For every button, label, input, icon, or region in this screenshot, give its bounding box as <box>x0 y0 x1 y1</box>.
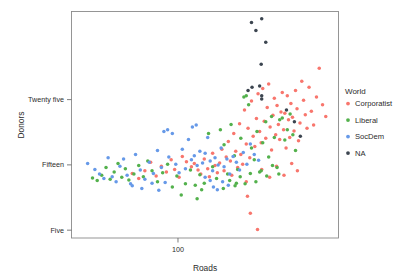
chart-svg: Twenty fiveFifteenFive 100 Donors Roads … <box>0 0 404 276</box>
data-point <box>206 136 210 140</box>
data-point <box>166 128 170 132</box>
data-point <box>282 174 286 178</box>
data-point <box>124 167 128 171</box>
data-point <box>98 172 102 176</box>
data-point <box>250 21 254 25</box>
data-point <box>139 168 143 172</box>
data-point <box>185 160 189 164</box>
data-point <box>134 153 138 157</box>
data-point <box>288 112 292 116</box>
data-point <box>196 168 200 172</box>
data-point <box>315 95 319 99</box>
data-point <box>156 149 160 153</box>
data-point <box>222 187 226 191</box>
legend-swatch-icon <box>346 151 350 155</box>
data-point <box>256 228 260 232</box>
data-point <box>203 181 207 185</box>
data-point <box>122 157 126 161</box>
data-point <box>216 188 220 192</box>
data-point <box>298 121 302 125</box>
data-point <box>171 132 175 136</box>
data-point <box>238 122 242 126</box>
data-point <box>219 128 223 132</box>
data-point <box>156 180 160 184</box>
data-point <box>125 174 129 178</box>
scatter-plot-figure: Twenty fiveFifteenFive 100 Donors Roads … <box>0 0 404 276</box>
data-point <box>143 178 147 182</box>
data-point <box>106 156 110 160</box>
data-point <box>238 175 242 179</box>
data-point <box>162 130 166 134</box>
data-point <box>160 166 164 170</box>
data-point <box>203 151 207 155</box>
data-point <box>250 99 254 103</box>
data-point <box>277 172 281 176</box>
data-point <box>277 123 281 127</box>
data-point <box>227 183 231 187</box>
data-point <box>232 132 236 136</box>
data-point <box>225 157 229 161</box>
data-point <box>189 168 193 172</box>
data-point <box>286 94 290 98</box>
data-point <box>216 171 220 175</box>
data-point <box>255 117 259 121</box>
data-point <box>249 172 253 176</box>
data-point <box>291 115 295 119</box>
data-point <box>235 181 239 185</box>
legend-item-label: Corporatist <box>355 99 393 108</box>
data-point <box>254 180 258 184</box>
data-point <box>273 136 277 140</box>
data-point <box>291 133 295 137</box>
legend-item-label: Liberal <box>355 116 378 125</box>
data-point <box>261 141 265 145</box>
data-point <box>93 168 97 172</box>
data-point <box>302 99 306 103</box>
data-point <box>256 92 260 96</box>
data-point <box>246 194 250 198</box>
data-point <box>163 181 167 185</box>
data-point <box>86 162 90 166</box>
data-point <box>275 166 279 170</box>
data-point <box>290 162 294 166</box>
data-point <box>221 180 225 184</box>
data-point <box>259 169 263 173</box>
data-point <box>222 165 226 169</box>
data-point <box>264 120 268 124</box>
data-point <box>257 159 261 163</box>
legend-item-label: NA <box>355 149 366 158</box>
data-point <box>255 130 259 134</box>
data-point <box>247 103 251 107</box>
data-point <box>181 147 185 151</box>
data-point <box>190 165 194 169</box>
y-tick-label: Twenty five <box>28 95 64 104</box>
data-point <box>295 107 299 111</box>
data-point <box>264 136 268 140</box>
data-point <box>212 185 216 189</box>
data-point <box>194 123 198 127</box>
data-point <box>228 179 232 183</box>
data-point <box>273 97 277 101</box>
data-point <box>184 182 188 186</box>
data-point <box>231 155 235 159</box>
data-point <box>279 110 283 114</box>
data-point <box>157 189 161 193</box>
data-point <box>143 169 147 173</box>
data-point <box>150 181 154 185</box>
data-point <box>249 142 253 146</box>
data-point <box>165 170 169 174</box>
data-point <box>271 164 275 168</box>
y-axis-title: Donors <box>16 112 26 139</box>
data-point <box>152 172 156 176</box>
data-point <box>318 67 322 71</box>
data-point <box>211 169 215 173</box>
data-point <box>110 175 114 179</box>
data-point <box>235 161 239 165</box>
data-point <box>206 167 210 171</box>
data-point <box>219 146 223 150</box>
data-point <box>245 94 249 98</box>
data-point <box>275 104 279 108</box>
legend-title: World <box>345 87 366 96</box>
data-point <box>161 171 165 175</box>
legend-swatch-icon <box>346 102 350 106</box>
data-point <box>190 158 194 162</box>
